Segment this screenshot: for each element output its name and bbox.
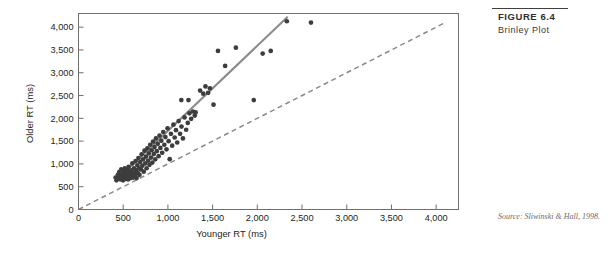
y-tick-label: 4,000 [51, 22, 74, 32]
data-point [174, 128, 179, 133]
data-point [159, 138, 164, 143]
data-point [157, 133, 162, 138]
data-point [179, 124, 184, 129]
caption-column: FIGURE 6.4 Brinley Plot Source: Sliwinsk… [472, 0, 612, 257]
data-point [211, 102, 216, 107]
y-tick-label: 0 [68, 205, 73, 215]
x-tick-label: 2,000 [246, 213, 269, 223]
data-point [260, 51, 265, 56]
data-point [155, 142, 160, 147]
identity-line [79, 24, 444, 210]
data-point [163, 135, 168, 140]
brinley-plot-chart: 05001,0001,5002,0002,5003,0003,5004,0000… [0, 0, 470, 257]
data-points-group [113, 19, 313, 183]
data-point [206, 90, 211, 95]
data-point [158, 146, 163, 151]
data-point [268, 49, 273, 54]
figure-panel: 05001,0001,5002,0002,5003,0003,5004,0000… [0, 0, 470, 257]
data-point [170, 143, 175, 148]
data-point [208, 86, 213, 91]
data-point [223, 64, 228, 69]
figure-number-label: FIGURE 6.4 [492, 11, 612, 23]
data-point [203, 84, 208, 89]
y-tick-label: 500 [58, 182, 73, 192]
y-tick-label: 1,500 [51, 136, 74, 146]
data-point [162, 142, 167, 147]
y-tick-label: 3,000 [51, 68, 74, 78]
x-tick-label: 2,500 [291, 213, 314, 223]
data-point [251, 98, 256, 103]
data-point [166, 139, 171, 144]
y-axis-title: Older RT (ms) [24, 84, 35, 143]
data-point [176, 119, 181, 124]
data-point [182, 115, 187, 120]
source-note: Source: Sliwinski & Hall, 1998. [498, 212, 610, 223]
figure-title-label: Brinley Plot [492, 24, 612, 37]
x-tick-label: 1,500 [201, 213, 224, 223]
data-point [184, 127, 189, 132]
data-point [167, 157, 172, 162]
caption-rule [492, 8, 568, 9]
data-point [201, 91, 206, 96]
x-axis-title: Younger RT (ms) [196, 228, 267, 239]
y-tick-label: 2,500 [51, 91, 74, 101]
x-tick-label: 3,000 [335, 213, 358, 223]
data-point [161, 130, 166, 135]
data-point [181, 136, 186, 141]
x-tick-label: 500 [116, 213, 131, 223]
data-point [171, 122, 176, 127]
data-point [309, 20, 314, 25]
data-point [193, 110, 198, 115]
data-point [136, 156, 141, 161]
data-point [156, 154, 161, 159]
data-point [169, 131, 174, 136]
x-tick-label: 3,500 [380, 213, 403, 223]
data-point [216, 49, 221, 54]
data-point [189, 116, 194, 121]
y-tick-label: 2,000 [51, 114, 74, 124]
data-point [137, 173, 142, 178]
data-point [164, 147, 169, 152]
data-point [284, 19, 289, 24]
data-point [154, 149, 159, 154]
data-point [175, 140, 180, 145]
data-point [172, 135, 177, 140]
y-tick-label: 1,000 [51, 159, 74, 169]
reference-lines-group [79, 17, 444, 210]
data-point [165, 126, 170, 131]
data-point [234, 45, 239, 50]
data-point [186, 98, 191, 103]
data-point [185, 121, 190, 126]
x-tick-label: 0 [76, 213, 81, 223]
x-tick-label: 1,000 [156, 213, 179, 223]
x-tick-label: 4,000 [425, 213, 448, 223]
figure-caption-block: FIGURE 6.4 Brinley Plot [492, 8, 612, 37]
data-point [179, 98, 184, 103]
y-tick-label: 3,500 [51, 45, 74, 55]
data-point [178, 131, 183, 136]
data-point [160, 150, 165, 155]
